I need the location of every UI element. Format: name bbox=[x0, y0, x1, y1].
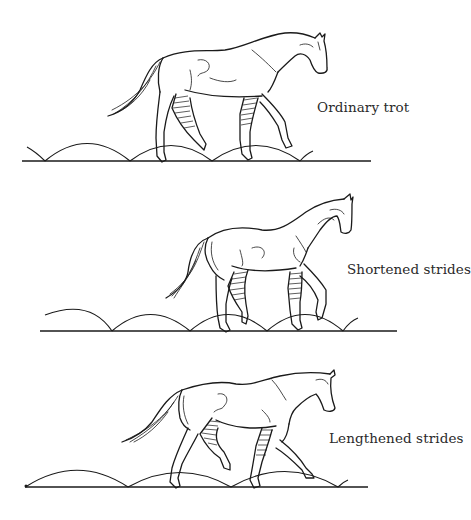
panel-shortened-strides: Shortened strides bbox=[0, 180, 465, 345]
label-shortened-strides: Shortened strides bbox=[347, 261, 471, 277]
label-ordinary-trot: Ordinary trot bbox=[317, 99, 409, 115]
hatching-fore bbox=[289, 273, 302, 299]
stride-arcs bbox=[27, 144, 313, 162]
horse-ordinary-trot-illustration bbox=[0, 0, 465, 175]
stride-arcs bbox=[45, 309, 358, 331]
stride-arcs bbox=[27, 470, 348, 487]
panel-lengthened-strides: Lengthened strides bbox=[0, 350, 465, 520]
label-lengthened-strides: Lengthened strides bbox=[329, 430, 464, 446]
horse-figure bbox=[122, 370, 335, 488]
horse-figure bbox=[166, 194, 353, 332]
horse-figure bbox=[108, 33, 327, 162]
panel-ordinary-trot: Ordinary trot bbox=[0, 0, 465, 175]
hatching-hind bbox=[173, 96, 195, 128]
